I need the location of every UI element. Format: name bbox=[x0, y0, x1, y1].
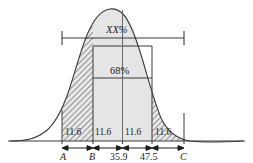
axis-label-b: B bbox=[89, 152, 95, 162]
axis-label-a: A bbox=[60, 152, 66, 162]
axis-label-mean: 35.9 bbox=[110, 152, 128, 162]
axis-label-c: C bbox=[180, 152, 187, 162]
interval-label-3: 11.6 bbox=[125, 128, 141, 138]
interval-label-1: 11.6 bbox=[65, 128, 81, 138]
interval-arrows bbox=[62, 146, 184, 151]
right-hatched-region bbox=[152, 5, 184, 141]
interval-label-2: 11.6 bbox=[95, 128, 111, 138]
axis-label-upper: 47.5 bbox=[140, 152, 158, 162]
top-bracket-label: XX% bbox=[106, 25, 128, 36]
band-68-label: 68% bbox=[110, 66, 129, 77]
interval-label-4: 11.6 bbox=[155, 128, 171, 138]
normal-distribution-figure: XX% 68% 11.6 11.6 11.6 11.6 A B 35.9 47.… bbox=[0, 0, 253, 163]
left-hatched-region bbox=[62, 5, 93, 141]
